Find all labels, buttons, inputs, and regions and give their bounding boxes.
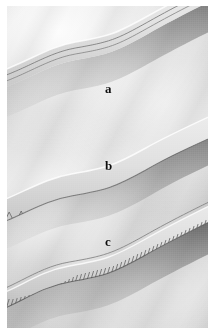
figure-plate: a b c bbox=[0, 0, 216, 336]
seam-photograph: a b c bbox=[7, 6, 208, 328]
label-b: b bbox=[105, 159, 112, 172]
label-a: a bbox=[105, 82, 112, 95]
label-c: c bbox=[105, 235, 111, 248]
